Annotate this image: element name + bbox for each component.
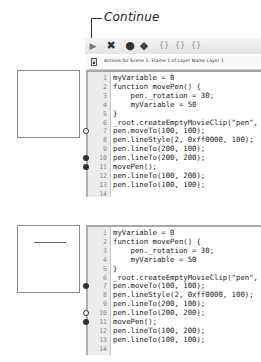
breakpoint-dot-icon: ● <box>125 39 135 53</box>
editor-top-border <box>86 70 261 72</box>
drawn-line <box>34 242 66 243</box>
breakpoint-icon[interactable] <box>83 283 89 289</box>
step-out-icon: {} <box>191 39 201 53</box>
code-line[interactable]: 14 <box>86 344 261 354</box>
actions-panel-header: Actions for Scene 1: Frame 1 of Layer Na… <box>87 56 261 70</box>
close-x-icon: ✖ <box>106 39 115 53</box>
continue-button[interactable]: ▶ <box>88 39 98 53</box>
breakpoint-icon[interactable] <box>83 310 89 316</box>
editor-top-border <box>86 225 261 227</box>
breakpoint-icon[interactable] <box>83 319 89 325</box>
breakpoint-icon[interactable] <box>83 155 89 161</box>
step-over-button[interactable]: {} <box>157 39 171 53</box>
breakpoint-icon[interactable] <box>83 128 89 134</box>
breakpoint-icon[interactable] <box>83 164 89 170</box>
play-arrow-icon: ▶ <box>90 39 97 53</box>
code-editor-2[interactable]: 1myVariable = 02function movePen() {3 pe… <box>86 225 261 355</box>
step-in-button[interactable]: {} <box>173 39 187 53</box>
code-editor-1[interactable]: 1myVariable = 02function movePen() {3 pe… <box>86 70 261 197</box>
debugger-toolbar: ▶ ✖ ● ◆ {} {} {} <box>85 38 261 54</box>
stage-preview-1 <box>17 70 80 138</box>
step-over-icon: {} <box>159 39 169 53</box>
stop-debugging-button[interactable]: ✖ <box>105 39 117 53</box>
remove-breakpoints-icon: ◆ <box>140 39 148 53</box>
step-in-icon: {} <box>175 39 185 53</box>
code-line[interactable]: 14 <box>86 189 261 199</box>
toggle-breakpoint-button[interactable]: ● <box>124 39 136 53</box>
script-pin-icon[interactable] <box>91 58 97 66</box>
stage-preview-2 <box>17 225 80 293</box>
remove-all-breakpoints-button[interactable]: ◆ <box>138 39 150 53</box>
callout-continue-label: Continue <box>104 10 160 24</box>
step-out-button[interactable]: {} <box>189 39 203 53</box>
callout-leader-line <box>91 18 102 19</box>
actions-panel-title: Actions for Scene 1: Frame 1 of Layer Na… <box>104 58 224 63</box>
line-number: 14 <box>94 344 107 354</box>
line-number: 14 <box>94 189 107 199</box>
